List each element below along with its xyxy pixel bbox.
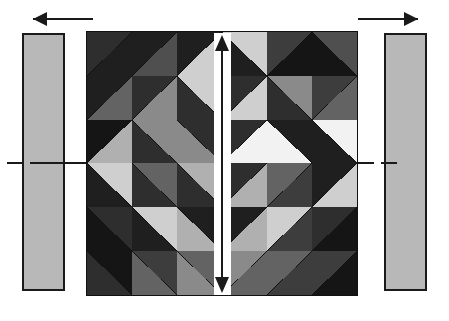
- cell-triangles: [312, 32, 357, 76]
- cell-triangles: [132, 76, 177, 120]
- mosaic-cell-r6-c5: [267, 251, 312, 295]
- cell-triangles: [267, 251, 312, 295]
- centerline-right-outer: [381, 162, 397, 164]
- vertical-double-arrow: [214, 33, 231, 295]
- cell-triangles: [312, 207, 357, 251]
- figure-canvas: [0, 0, 449, 321]
- mosaic-cell-r3-c2: [132, 120, 177, 164]
- arrow-head-right: [404, 12, 418, 26]
- mosaic-cell-r2-c1: [87, 76, 132, 120]
- cell-triangles: [312, 251, 357, 295]
- arrow-shaft: [221, 47, 223, 281]
- arrow-head-up: [215, 35, 229, 51]
- mosaic-cell-r6-c1: [87, 251, 132, 295]
- mosaic-cell-r5-c1: [87, 207, 132, 251]
- cell-triangles: [312, 120, 357, 164]
- centerline-left-inner: [30, 162, 86, 164]
- cell-triangles: [132, 163, 177, 207]
- mosaic-cell-r4-c5: [267, 163, 312, 207]
- mosaic-cell-r6-c6: [312, 251, 357, 295]
- mosaic-cell-r1-c5: [267, 32, 312, 76]
- mosaic-cell-r5-c5: [267, 207, 312, 251]
- cell-triangles: [267, 120, 312, 164]
- mosaic-cell-r4-c1: [87, 163, 132, 207]
- mosaic-cell-r3-c5: [267, 120, 312, 164]
- mosaic-cell-r2-c2: [132, 76, 177, 120]
- arrow-head-down: [215, 277, 229, 293]
- centerline-right-inner: [358, 162, 374, 164]
- cell-triangles: [267, 76, 312, 120]
- cell-triangles: [87, 76, 132, 120]
- mosaic-cell-r6-c2: [132, 251, 177, 295]
- cell-triangles: [87, 120, 132, 164]
- cell-triangles: [267, 32, 312, 76]
- mosaic-cell-r1-c2: [132, 32, 177, 76]
- right-direction-arrow: [358, 12, 418, 26]
- left-direction-arrow: [33, 12, 93, 26]
- mosaic-cell-r2-c6: [312, 76, 357, 120]
- mosaic-cell-r5-c2: [132, 207, 177, 251]
- mosaic-cell-r4-c2: [132, 163, 177, 207]
- mosaic-cell-r1-c1: [87, 32, 132, 76]
- cell-triangles: [87, 32, 132, 76]
- mosaic-cell-r4-c6: [312, 163, 357, 207]
- cell-triangles: [87, 207, 132, 251]
- mosaic-cell-r2-c5: [267, 76, 312, 120]
- cell-triangles: [312, 163, 357, 207]
- cell-triangles: [132, 120, 177, 164]
- cell-triangles: [87, 163, 132, 207]
- cell-triangles: [132, 207, 177, 251]
- cell-triangles: [267, 163, 312, 207]
- mosaic-cell-r3-c6: [312, 120, 357, 164]
- mosaic-cell-r1-c6: [312, 32, 357, 76]
- cell-triangles: [132, 251, 177, 295]
- mosaic-cell-r5-c6: [312, 207, 357, 251]
- cell-triangles: [312, 76, 357, 120]
- cell-triangles: [132, 32, 177, 76]
- centerline-left-outer: [7, 162, 23, 164]
- cell-triangles: [267, 207, 312, 251]
- mosaic-cell-r3-c1: [87, 120, 132, 164]
- cell-triangles: [87, 251, 132, 295]
- arrow-head-left: [33, 12, 47, 26]
